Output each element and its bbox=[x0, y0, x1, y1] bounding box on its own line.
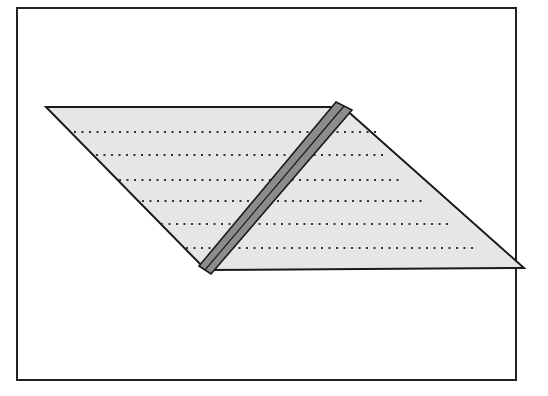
diagram-canvas bbox=[0, 0, 548, 396]
